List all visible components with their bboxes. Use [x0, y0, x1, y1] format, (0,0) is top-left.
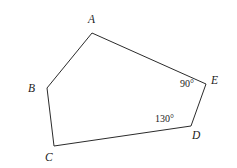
vertex-label-b: B	[28, 83, 35, 95]
vertex-label-d: D	[192, 130, 200, 142]
angle-measure-at-e: 90°	[180, 79, 194, 89]
vertex-label-e: E	[211, 75, 218, 87]
angle-measure-at-d: 130°	[155, 114, 174, 124]
pentagon-diagram	[0, 0, 237, 168]
geometry-figure: A B C D E 90° 130°	[0, 0, 237, 168]
pentagon-outline	[47, 33, 206, 146]
vertex-label-c: C	[45, 152, 53, 164]
vertex-label-a: A	[88, 14, 95, 26]
